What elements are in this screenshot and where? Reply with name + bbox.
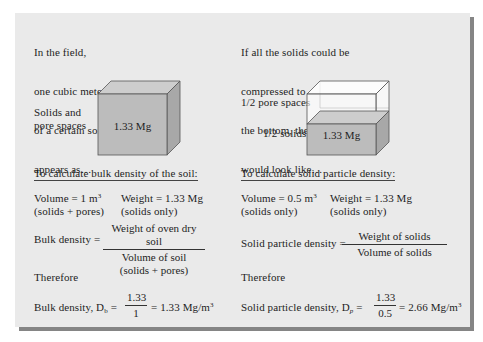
particle-density-result-text: Solid particle density, D	[241, 301, 350, 313]
particle-density-result-fraction: 1.33 0.5	[374, 291, 396, 320]
bulk-density-numerator: Weight of oven dry soil	[103, 222, 205, 250]
cube-side-label-line: Solids and	[34, 106, 86, 119]
right-weight-note: (solids only)	[330, 205, 412, 218]
left-intro-line: one cubic meter	[34, 85, 106, 98]
bulk-density-denominator-note: (solids + pores)	[103, 264, 205, 277]
particle-density-result-label: Solid particle density, Dp =	[241, 301, 363, 314]
right-therefore: Therefore	[241, 271, 285, 284]
solids-label: 1/2 solids	[263, 127, 306, 140]
bulk-density-formula-label: Bulk density =	[34, 233, 100, 246]
left-volume-text: Volume = 1 m	[34, 192, 98, 204]
left-weight-note: (solids only)	[121, 205, 203, 218]
particle-density-formula-label: Solid particle density =	[241, 237, 346, 250]
right-weight-text: Weight = 1.33 Mg	[330, 192, 412, 205]
equals-sign: =	[111, 301, 117, 313]
cube-side-face	[167, 81, 180, 155]
cube-side-label-line: pore spaces	[34, 119, 86, 132]
left-volume-exp: 3	[98, 192, 102, 200]
soil-cube-mass: 1.33 Mg	[98, 120, 167, 133]
bulk-density-result-fraction: 1.33 1	[125, 291, 147, 320]
right-intro-line: If all the solids could be	[241, 46, 350, 59]
solids-top-face	[307, 111, 389, 124]
result-value-exp: 3	[210, 301, 214, 309]
bulk-density-result-text: Bulk density, D	[34, 301, 104, 313]
left-weight: Weight = 1.33 Mg (solids only)	[121, 192, 203, 218]
bulk-density-result-value: = 1.33 Mg/m3	[151, 301, 214, 314]
particle-density-denominator: Volume of solids	[342, 245, 447, 259]
right-volume-exp: 3	[313, 192, 317, 200]
particle-density-subscript: p	[350, 307, 354, 315]
pore-spaces-label: 1/2 pore spaces	[241, 96, 310, 109]
particle-density-result-value: = 2.66 Mg/m3	[399, 301, 462, 314]
left-weight-text: Weight = 1.33 Mg	[121, 192, 203, 205]
result-value-text: = 1.33 Mg/m	[151, 301, 210, 313]
bulk-density-fraction: Weight of oven dry soil Volume of soil (…	[103, 222, 205, 277]
left-therefore: Therefore	[34, 271, 78, 284]
particle-density-heading: To calculate solid particle density:	[241, 167, 395, 180]
right-volume-text: Volume = 0.5 m	[241, 192, 313, 204]
cube-side-label: Solids and pore spaces	[34, 106, 86, 132]
bulk-density-heading: To calculate bulk density of the soil:	[34, 167, 198, 180]
particle-density-fraction: Weight of solids Volume of solids	[342, 230, 447, 259]
cube-top-face	[98, 81, 180, 94]
bulk-density-result-label: Bulk density, Db =	[34, 301, 117, 314]
particle-density-numerator: Weight of solids	[342, 230, 447, 245]
left-volume: Volume = 1 m3 (solids + pores)	[34, 192, 104, 218]
result-value-exp: 3	[458, 301, 462, 309]
pore-top-face	[307, 81, 389, 94]
left-intro-line: In the field,	[34, 46, 106, 59]
soil-cube-diagram	[96, 80, 186, 158]
result-numerator: 1.33	[125, 291, 147, 306]
equals-sign: =	[356, 301, 362, 313]
compressed-cube-mass: 1.33 Mg	[307, 129, 376, 142]
result-value-text: = 2.66 Mg/m	[399, 301, 458, 313]
right-weight: Weight = 1.33 Mg (solids only)	[330, 192, 412, 218]
bulk-density-denominator: Volume of soil	[103, 250, 205, 264]
particle-density-heading-text: To calculate solid particle density:	[241, 167, 395, 181]
right-volume-note: (solids only)	[241, 205, 317, 218]
result-numerator: 1.33	[374, 291, 396, 306]
bulk-density-subscript: b	[104, 307, 108, 315]
compressed-cube-diagram	[305, 80, 395, 158]
result-denominator: 0.5	[374, 306, 396, 320]
right-volume: Volume = 0.5 m3 (solids only)	[241, 192, 317, 218]
left-intro-text: In the field, one cubic meter of a certa…	[34, 20, 106, 189]
left-volume-note: (solids + pores)	[34, 205, 104, 218]
bulk-density-heading-text: To calculate bulk density of the soil:	[34, 167, 198, 181]
result-denominator: 1	[125, 306, 147, 320]
